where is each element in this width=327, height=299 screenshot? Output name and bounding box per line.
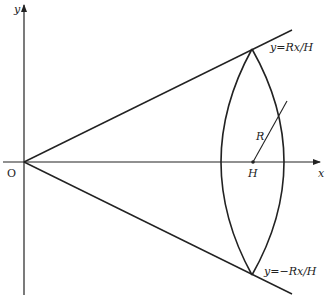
- h-point: [251, 160, 255, 164]
- radius-label: R: [256, 131, 264, 142]
- y-axis-label: y: [14, 4, 20, 15]
- x-axis-label: x: [318, 168, 324, 179]
- upper-line-label: y=Rx/H: [270, 42, 313, 53]
- height-label: H: [248, 168, 258, 179]
- origin-label: O: [7, 168, 16, 179]
- cone-diagram: y O x y=Rx/H y=−Rx/H R H: [0, 0, 327, 299]
- lower-line-label: y=−Rx/H: [264, 266, 316, 277]
